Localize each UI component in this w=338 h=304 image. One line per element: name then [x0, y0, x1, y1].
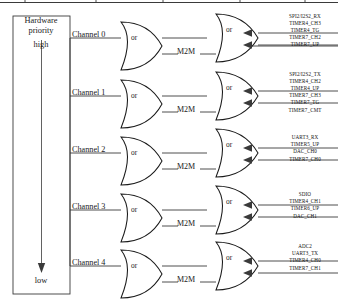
or-gate-ch3-left-label: or — [131, 206, 137, 213]
or-gate-ch4-right-label: or — [226, 254, 232, 261]
signal-name: TIMER4_CH0 — [274, 257, 336, 264]
priority-high-label: high — [4, 41, 78, 49]
signal-list-channel-1: SPI2/I2S2_TXTIMER4_CH2TIMER4_UPTIMER7_CH… — [274, 71, 336, 114]
or-gate-group-left — [121, 22, 162, 298]
or-gate-ch3-right — [216, 186, 258, 234]
signal-name: ADC2 — [274, 243, 336, 250]
signal-name: TIMER4_CH1 — [274, 198, 336, 205]
priority-arrow-icon — [38, 40, 45, 273]
or-gate-ch1-right-label: or — [226, 84, 232, 91]
m2m-label-ch3: M2M — [177, 220, 195, 228]
signal-name: TIMER7_CH0 — [274, 156, 336, 163]
signal-name: TIMER4_TG — [274, 27, 336, 34]
signal-name: TIMER7_CH3 — [274, 92, 336, 99]
m2m-label-ch0: M2M — [177, 48, 195, 56]
signal-name: TIMER5_UP — [274, 141, 336, 148]
or-gate-ch3-left — [121, 194, 162, 242]
or-gate-ch0-right-label: or — [226, 26, 232, 33]
signal-name: TIMER4_CH2 — [274, 78, 336, 85]
or-gate-ch1-left — [121, 80, 162, 128]
signal-name: UART3_RX — [274, 134, 336, 141]
signal-name: SDIO — [274, 191, 336, 198]
channel-label-3: Channel 3 — [72, 203, 105, 211]
signal-list-channel-0: SPI2/I2S2_RXTIMER4_CH3TIMER4_TGTIMER7_CH… — [274, 13, 336, 49]
m2m-label-ch1: M2M — [177, 106, 195, 114]
or-gate-ch0-left — [121, 22, 162, 70]
or-gate-ch3-right-label: or — [226, 198, 232, 205]
signal-name: TIMER7_CMT — [274, 107, 336, 114]
signal-name: TIMER4_UP — [274, 85, 336, 92]
signal-list-channel-3: SDIOTIMER4_CH1TIMER6_UPDAC_CH1 — [274, 191, 336, 220]
signal-name: TIMER7_CH2 — [274, 34, 336, 41]
signal-name: TIMER4_CH3 — [274, 20, 336, 27]
channel-label-0: Channel 0 — [72, 31, 105, 39]
channel-label-4: Channel 4 — [72, 259, 105, 267]
or-gate-ch2-left-label: or — [131, 149, 137, 156]
signal-name: SPI2/I2S2_TX — [274, 71, 336, 78]
or-gate-ch2-left — [121, 137, 162, 185]
signal-list-channel-4: ADC2UART3_TXTIMER4_CH0TIMER7_CH1 — [274, 243, 336, 272]
channel-label-1: Channel 1 — [72, 89, 105, 97]
or-gate-ch4-left-label: or — [131, 262, 137, 269]
or-gate-ch4-left — [121, 250, 162, 298]
priority-title-line1: Hardware — [4, 17, 78, 25]
signal-name: TIMER7_TG — [274, 99, 336, 106]
or-gate-ch0-left-label: or — [131, 34, 137, 41]
signal-list-channel-2: UART3_RXTIMER5_UPDAC_CH0TIMER7_CH0 — [274, 134, 336, 163]
signal-name: TIMER7_CH1 — [274, 265, 336, 272]
channel-label-2: Channel 2 — [72, 146, 105, 154]
or-gate-group-right — [216, 14, 258, 290]
priority-title-line2: priority — [4, 27, 78, 35]
or-gate-ch0-right — [216, 14, 258, 62]
priority-low-label: low — [4, 277, 78, 285]
or-gate-ch4-right — [216, 242, 258, 290]
diagram-canvas: Hardware priority high low Channel 0 Cha… — [0, 0, 338, 304]
or-gate-ch1-left-label: or — [131, 92, 137, 99]
or-gate-ch1-right — [216, 72, 258, 120]
signal-name: SPI2/I2S2_RX — [274, 13, 336, 20]
m2m-label-ch4: M2M — [177, 276, 195, 284]
signal-name: UART3_TX — [274, 250, 336, 257]
signal-name: DAC_CH1 — [274, 213, 336, 220]
signal-name: TIMER7_UP — [274, 41, 336, 48]
or-gate-ch2-right — [216, 129, 258, 177]
signal-name: DAC_CH0 — [274, 148, 336, 155]
signal-name: TIMER6_UP — [274, 205, 336, 212]
or-gate-ch2-right-label: or — [226, 141, 232, 148]
m2m-label-ch2: M2M — [177, 163, 195, 171]
